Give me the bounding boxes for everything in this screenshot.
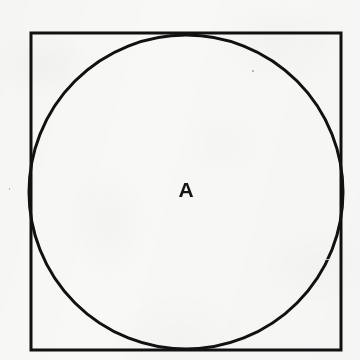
region-label-a: A bbox=[178, 179, 193, 200]
figure-canvas: A bbox=[0, 0, 360, 360]
